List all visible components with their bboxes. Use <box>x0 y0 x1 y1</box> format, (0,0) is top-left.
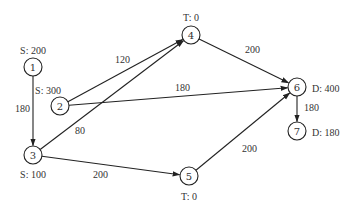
node-supply-demand-annotation: S: 100 <box>20 169 46 180</box>
node-supply-demand-annotation: S: 200 <box>20 45 46 56</box>
edge-capacity-label: 180 <box>15 103 30 114</box>
arrow-line <box>42 156 180 175</box>
node-5: 5 <box>180 167 198 185</box>
edge-capacity-label: 80 <box>75 125 85 136</box>
edge-capacity-label: 200 <box>245 44 260 55</box>
arrow-line <box>68 40 183 102</box>
edges-layer <box>33 39 297 175</box>
edge-capacity-label: 200 <box>93 169 108 180</box>
arrow-line <box>40 41 183 150</box>
node-id-label: 3 <box>30 150 36 161</box>
edge-4-to-6 <box>199 39 288 83</box>
edge-3-to-4 <box>40 41 183 150</box>
node-id-label: 6 <box>294 82 300 93</box>
edge-capacity-label: 120 <box>115 54 130 65</box>
node-supply-demand-annotation: D: 400 <box>312 83 340 94</box>
edge-capacity-label: 180 <box>175 82 190 93</box>
node-id-label: 1 <box>30 62 36 73</box>
node-3: 3 <box>24 146 42 164</box>
node-7: 7 <box>288 122 306 140</box>
node-id-label: 5 <box>186 171 192 182</box>
edge-capacity-label: 200 <box>242 143 257 154</box>
node-6: 6 <box>288 78 306 96</box>
node-supply-demand-annotation: S: 300 <box>35 85 61 96</box>
node-1: 1 <box>24 58 42 76</box>
arrow-line <box>196 93 290 170</box>
nodes-layer: 1234567 <box>24 26 306 185</box>
edge-2-to-4 <box>68 40 183 102</box>
node-supply-demand-annotation: T: 0 <box>181 191 197 202</box>
node-id-label: 7 <box>294 126 300 137</box>
node-supply-demand-annotation: T: 0 <box>183 12 199 23</box>
arrow-line <box>199 39 288 83</box>
edge-5-to-6 <box>196 93 290 170</box>
node-supply-demand-annotation: D: 180 <box>312 127 340 138</box>
node-4: 4 <box>182 26 200 44</box>
node-id-label: 4 <box>188 30 194 41</box>
edge-3-to-5 <box>42 156 180 175</box>
edge-capacity-label: 180 <box>304 102 319 113</box>
network-flow-diagram: 1234567 18012018080200200200180S: 200S: … <box>0 0 353 213</box>
node-id-label: 2 <box>57 101 63 112</box>
node-2: 2 <box>51 97 69 115</box>
